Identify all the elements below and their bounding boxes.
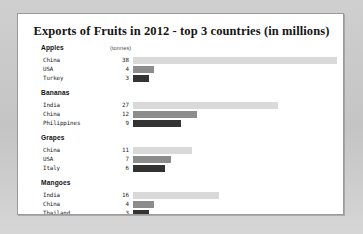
bar-category-label: India	[43, 101, 60, 110]
bar-value-label: 11	[101, 146, 129, 155]
bar-row: India16	[41, 191, 337, 200]
bar-category-label: USA	[43, 155, 53, 164]
bar-track	[133, 75, 337, 82]
bar-group: Apples(tonnes)China38USA4Turkey3	[41, 44, 337, 83]
bar-row: USA4	[41, 65, 337, 74]
bar-group-label: Mangoes	[41, 179, 71, 186]
bar-track	[133, 210, 337, 215]
bar-group-label: Grapes	[41, 134, 65, 141]
bar	[133, 156, 171, 163]
bar-category-label: USA	[43, 65, 53, 74]
bar-value-label: 4	[101, 200, 129, 209]
bar	[133, 75, 149, 82]
bar-row: Philippines9	[41, 119, 337, 128]
bar-category-label: China	[43, 56, 60, 65]
bar	[133, 147, 192, 154]
bar-row: China4	[41, 200, 337, 209]
bar	[133, 201, 154, 208]
bar-group-header: Grapes	[41, 134, 337, 145]
bar-value-label: 3	[101, 74, 129, 83]
bar-category-label: Turkey	[43, 74, 63, 83]
bar-value-label: 12	[101, 110, 129, 119]
bar-value-label: 9	[101, 119, 129, 128]
bar-group-header: Mangoes	[41, 179, 337, 190]
bar-track	[133, 111, 337, 118]
bar-category-label: Italy	[43, 164, 60, 173]
bar	[133, 165, 165, 172]
bar-track	[133, 165, 337, 172]
bar-value-label: 27	[101, 101, 129, 110]
chart-plot-area: Apples(tonnes)China38USA4Turkey3BananasI…	[41, 44, 337, 215]
bar-group: MangoesIndia16China4Thailand3	[41, 179, 337, 215]
bar-group: BananasIndia27China12Philippines9	[41, 89, 337, 128]
screenshot-root: Exports of Fruits in 2012 - top 3 countr…	[0, 0, 363, 234]
bar-group-header: Apples(tonnes)	[41, 44, 337, 55]
bar-row: Turkey3	[41, 74, 337, 83]
bar-category-label: China	[43, 110, 60, 119]
bar-row: USA7	[41, 155, 337, 164]
bar-track	[133, 147, 337, 154]
bar-category-label: China	[43, 200, 60, 209]
bar-track	[133, 120, 337, 127]
bar-category-label: India	[43, 191, 60, 200]
bar-row: India27	[41, 101, 337, 110]
bar-value-label: 3	[101, 209, 129, 215]
bar-value-label: 38	[101, 56, 129, 65]
bar-category-label: Thailand	[43, 209, 70, 215]
bar-category-label: Philippines	[43, 119, 80, 128]
bar	[133, 210, 149, 215]
bar-group-label: Apples	[41, 44, 64, 51]
bar-track	[133, 156, 337, 163]
bar-track	[133, 192, 337, 199]
bar	[133, 120, 181, 127]
bar-row: Thailand3	[41, 209, 337, 215]
bar-track	[133, 102, 337, 109]
bar	[133, 102, 278, 109]
chart-panel: Exports of Fruits in 2012 - top 3 countr…	[17, 13, 344, 215]
bar-value-label: 7	[101, 155, 129, 164]
bar-row: China38	[41, 56, 337, 65]
bar	[133, 57, 337, 64]
bar-track	[133, 66, 337, 73]
bar-track	[133, 57, 337, 64]
bar	[133, 192, 219, 199]
bar-group-header: Bananas	[41, 89, 337, 100]
bar	[133, 66, 154, 73]
chart-title: Exports of Fruits in 2012 - top 3 countr…	[18, 24, 344, 39]
bar-category-label: China	[43, 146, 60, 155]
bar-value-label: 6	[101, 164, 129, 173]
bar-group: GrapesChina11USA7Italy6	[41, 134, 337, 173]
bar-track	[133, 201, 337, 208]
bar-value-label: 16	[101, 191, 129, 200]
bar-group-label: Bananas	[41, 89, 70, 96]
bar-row: China12	[41, 110, 337, 119]
bar-value-label: 4	[101, 65, 129, 74]
bar-row: China11	[41, 146, 337, 155]
bar	[133, 111, 197, 118]
bar-row: Italy6	[41, 164, 337, 173]
unit-label: (tonnes)	[110, 45, 131, 51]
